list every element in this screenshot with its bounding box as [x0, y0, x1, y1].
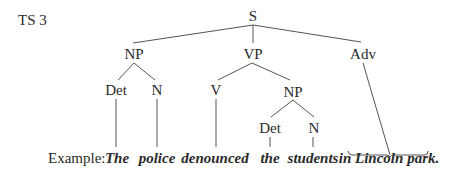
word-denounced: denounced [181, 150, 249, 167]
word-phrase-in-lincoln-park: in Lincoln park. [339, 150, 439, 167]
edge-vp-v [218, 63, 252, 80]
edge-np-det [118, 63, 134, 80]
node-np2: NP [283, 84, 302, 100]
node-vp: VP [243, 46, 262, 62]
node-adv: Adv [350, 46, 376, 62]
node-n2: N [309, 120, 320, 136]
edge-np2-det2 [271, 100, 293, 117]
edge-np2-n2 [293, 100, 314, 117]
node-det2: Det [259, 120, 281, 136]
diagram-title: TS 3 [18, 12, 47, 29]
edge-vp-np2 [252, 63, 290, 80]
node-np: NP [124, 46, 143, 62]
word-the: The [105, 150, 129, 167]
node-det: Det [105, 82, 127, 98]
edge-np-n [134, 63, 155, 80]
word-students: students [288, 150, 339, 167]
edge-s-adv [253, 25, 361, 42]
node-s: S [249, 8, 257, 24]
edge-s-np [133, 25, 253, 43]
node-n: N [152, 82, 163, 98]
example-label: Example: [48, 150, 105, 167]
node-v: V [211, 82, 222, 98]
edge-adv-phrase [363, 63, 390, 155]
word-police: police [139, 150, 176, 167]
word-the-2: the [260, 150, 279, 167]
